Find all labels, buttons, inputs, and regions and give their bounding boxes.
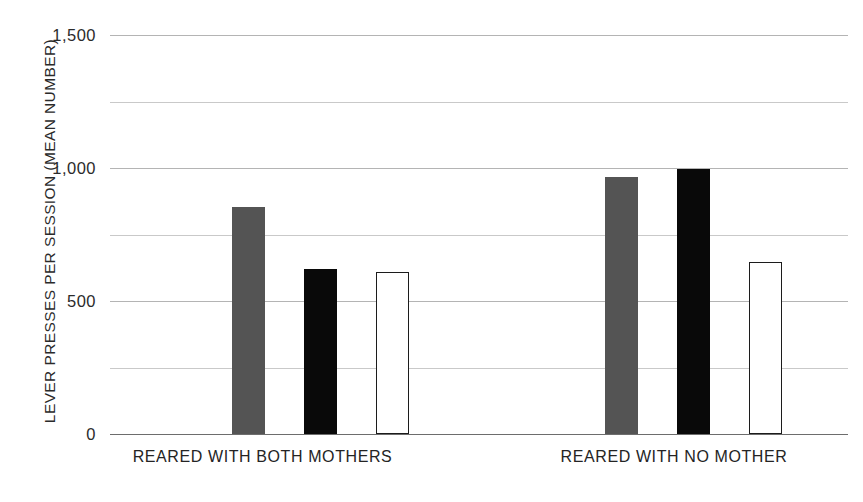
gridline [110, 168, 848, 169]
group-label-2: REARED WITH NO MOTHER [500, 448, 848, 466]
group-label-1: REARED WITH BOTH MOTHERS [110, 448, 415, 466]
gridline [110, 301, 848, 302]
bar-chart: LEVER PRESSES PER SESSION (MEAN NUMBER) … [0, 0, 863, 502]
y-axis-tick-labels: 1,500 1,000 500 0 [34, 0, 96, 502]
plot-area [110, 35, 848, 434]
bar [677, 169, 710, 434]
y-tick-label: 0 [36, 426, 96, 443]
axis-baseline [110, 434, 848, 435]
bar [304, 269, 337, 434]
gridline [110, 235, 848, 236]
gridline [110, 35, 848, 36]
bar [749, 262, 782, 434]
bar [605, 177, 638, 434]
y-tick-label: 1,500 [36, 27, 96, 44]
bar [232, 207, 265, 434]
y-tick-label: 500 [36, 293, 96, 310]
bar [533, 54, 566, 434]
bar [160, 200, 193, 434]
bar [376, 272, 409, 434]
gridline [110, 102, 848, 103]
gridline [110, 368, 848, 369]
y-tick-label: 1,000 [36, 160, 96, 177]
